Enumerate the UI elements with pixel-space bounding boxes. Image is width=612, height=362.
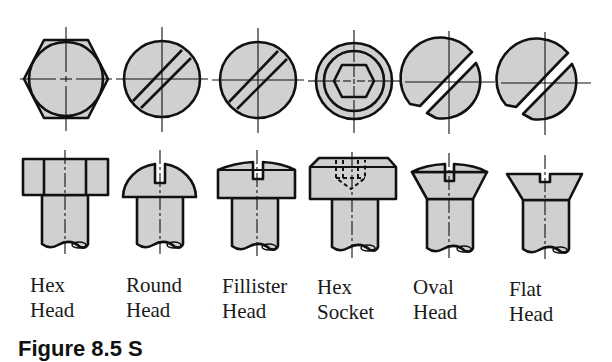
label-round-head-line1: Round xyxy=(126,273,182,298)
label-round-head-line2: Head xyxy=(126,298,182,323)
oval-head-top-view xyxy=(401,31,495,134)
label-fillister-head-line1: Fillister xyxy=(222,274,287,299)
label-fillister-head: Fillister Head xyxy=(222,274,287,324)
hex-socket-side-view xyxy=(310,152,396,258)
hex-head-top-view xyxy=(20,27,112,131)
label-hex-head-line2: Head xyxy=(30,298,74,323)
hex-socket-top-view xyxy=(308,30,400,133)
flat-head-side-view xyxy=(507,155,582,259)
label-hex-socket: Hex Socket xyxy=(317,275,374,325)
label-oval-head-line2: Head xyxy=(413,300,457,325)
label-oval-head: Oval Head xyxy=(413,275,457,325)
label-hex-socket-line1: Hex xyxy=(317,275,374,300)
label-flat-head-line1: Flat xyxy=(509,277,553,302)
flat-head-top-view xyxy=(497,32,591,135)
label-flat-head-line2: Head xyxy=(509,302,553,327)
figure-caption: Figure 8.5 S xyxy=(18,336,143,362)
label-flat-head: Flat Head xyxy=(509,277,553,327)
label-oval-head-line1: Oval xyxy=(413,275,457,300)
label-hex-head: Hex Head xyxy=(30,273,74,323)
round-head-side-view xyxy=(123,150,196,254)
round-head-top-view xyxy=(116,27,208,132)
oval-head-side-view xyxy=(412,153,487,258)
fillister-head-side-view xyxy=(218,150,295,258)
hex-head-side-view xyxy=(23,150,108,254)
label-hex-head-line1: Hex xyxy=(30,273,74,298)
label-hex-socket-line2: Socket xyxy=(317,300,374,325)
fillister-head-top-view xyxy=(212,28,304,133)
label-round-head: Round Head xyxy=(126,273,182,323)
label-fillister-head-line2: Head xyxy=(222,299,287,324)
